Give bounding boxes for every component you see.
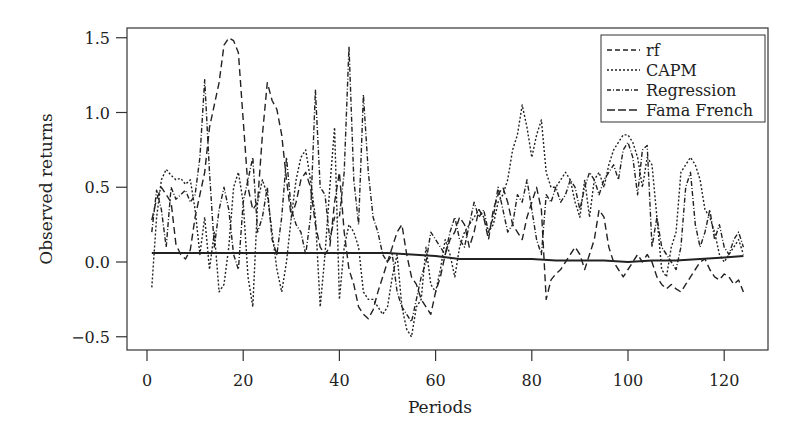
series-line-fama-french [152, 253, 744, 262]
y-tick-label: 0.0 [85, 253, 110, 272]
legend: rfCAPMRegressionFama French [601, 35, 765, 122]
y-tick-label: −0.5 [71, 328, 110, 347]
legend-label: CAPM [646, 61, 697, 80]
x-tick-label: 120 [709, 371, 740, 390]
y-tick-label: 0.5 [85, 178, 110, 197]
x-tick-label: 100 [613, 371, 644, 390]
legend-label: rf [646, 41, 661, 60]
x-tick-label: 0 [142, 371, 152, 390]
y-tick-label: 1.0 [85, 104, 110, 123]
y-tick-label: 1.5 [85, 29, 110, 48]
x-axis: 020406080100120 [142, 350, 740, 390]
legend-label: Regression [646, 81, 736, 100]
y-axis-label: Observed returns [36, 113, 56, 264]
x-axis-label: Periods [408, 397, 472, 417]
x-tick-label: 20 [233, 371, 253, 390]
series-line-capm [152, 105, 744, 337]
legend-label: Fama French [646, 101, 753, 120]
x-tick-label: 60 [425, 371, 445, 390]
chart-canvas: −0.50.00.51.01.5 020406080100120 Periods… [0, 0, 799, 437]
y-axis: −0.50.00.51.01.5 [71, 29, 127, 347]
x-tick-label: 80 [522, 371, 542, 390]
x-tick-label: 40 [329, 371, 349, 390]
